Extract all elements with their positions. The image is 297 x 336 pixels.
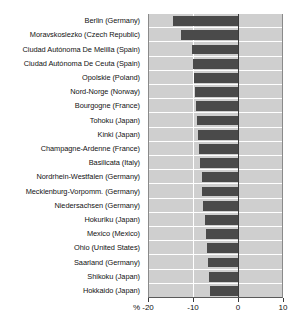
category-label: Opolskie (Poland) — [0, 71, 144, 85]
bar — [202, 172, 238, 182]
bar — [173, 16, 238, 26]
x-axis-tick-label: 10 — [279, 303, 288, 312]
bar — [206, 229, 238, 239]
bar — [199, 144, 238, 154]
x-axis-tick — [238, 298, 239, 302]
x-axis — [148, 298, 283, 303]
category-label: Champagne-Ardenne (France) — [0, 142, 144, 156]
category-label: Ciudad Autónoma De Melilla (Spain) — [0, 42, 144, 56]
category-label: Ciudad Autónoma De Ceuta (Spain) — [0, 57, 144, 71]
x-axis-tick — [148, 298, 149, 302]
x-axis-tick-label: -10 — [187, 303, 199, 312]
category-label: Basilicata (Italy) — [0, 156, 144, 170]
bar-chart: Berlin (Germany)Moravskoslezko (Czech Re… — [0, 0, 297, 336]
bar — [196, 101, 238, 111]
zero-axis-line — [238, 14, 239, 298]
category-label: Mecklenburg-Vorpomm. (Germany) — [0, 184, 144, 198]
bar — [203, 201, 238, 211]
x-axis-tick — [283, 298, 284, 302]
category-label: Saarland (Germany) — [0, 255, 144, 269]
bar — [198, 130, 238, 140]
bar — [195, 87, 238, 97]
bar — [194, 73, 238, 83]
category-label: Tohoku (Japan) — [0, 113, 144, 127]
category-label: Hokuriku (Japan) — [0, 213, 144, 227]
bar — [193, 59, 238, 69]
bar — [210, 286, 238, 296]
category-label: Kinki (Japan) — [0, 128, 144, 142]
category-label: Bourgogne (France) — [0, 99, 144, 113]
bar — [192, 45, 238, 55]
category-label: Moravskoslezko (Czech Republic) — [0, 28, 144, 42]
bar — [209, 272, 238, 282]
category-label: Ohio (United States) — [0, 241, 144, 255]
bar — [200, 158, 238, 168]
category-label: Nordrhein-Westfalen (Germany) — [0, 170, 144, 184]
bar — [197, 116, 238, 126]
category-label: Shikoku (Japan) — [0, 270, 144, 284]
bar — [207, 243, 239, 253]
category-label: Mexico (Mexico) — [0, 227, 144, 241]
chart-title — [0, 0, 297, 6]
plot-area — [148, 14, 283, 298]
bar — [205, 215, 238, 225]
x-axis-tick-label: -20 — [142, 303, 154, 312]
bar — [181, 30, 238, 40]
category-label: Niedersachsen (Germany) — [0, 199, 144, 213]
x-axis-tick — [193, 298, 194, 302]
category-label: Nord-Norge (Norway) — [0, 85, 144, 99]
x-axis-tick-label: 0 — [236, 303, 240, 312]
category-axis-labels: Berlin (Germany)Moravskoslezko (Czech Re… — [0, 14, 144, 298]
bar — [208, 258, 238, 268]
x-axis-unit-label: % — [133, 303, 140, 312]
bar — [202, 187, 238, 197]
category-label: Berlin (Germany) — [0, 14, 144, 28]
vertical-gridline — [193, 14, 194, 298]
vertical-gridline — [148, 14, 149, 298]
category-label: Hokkaido (Japan) — [0, 284, 144, 298]
